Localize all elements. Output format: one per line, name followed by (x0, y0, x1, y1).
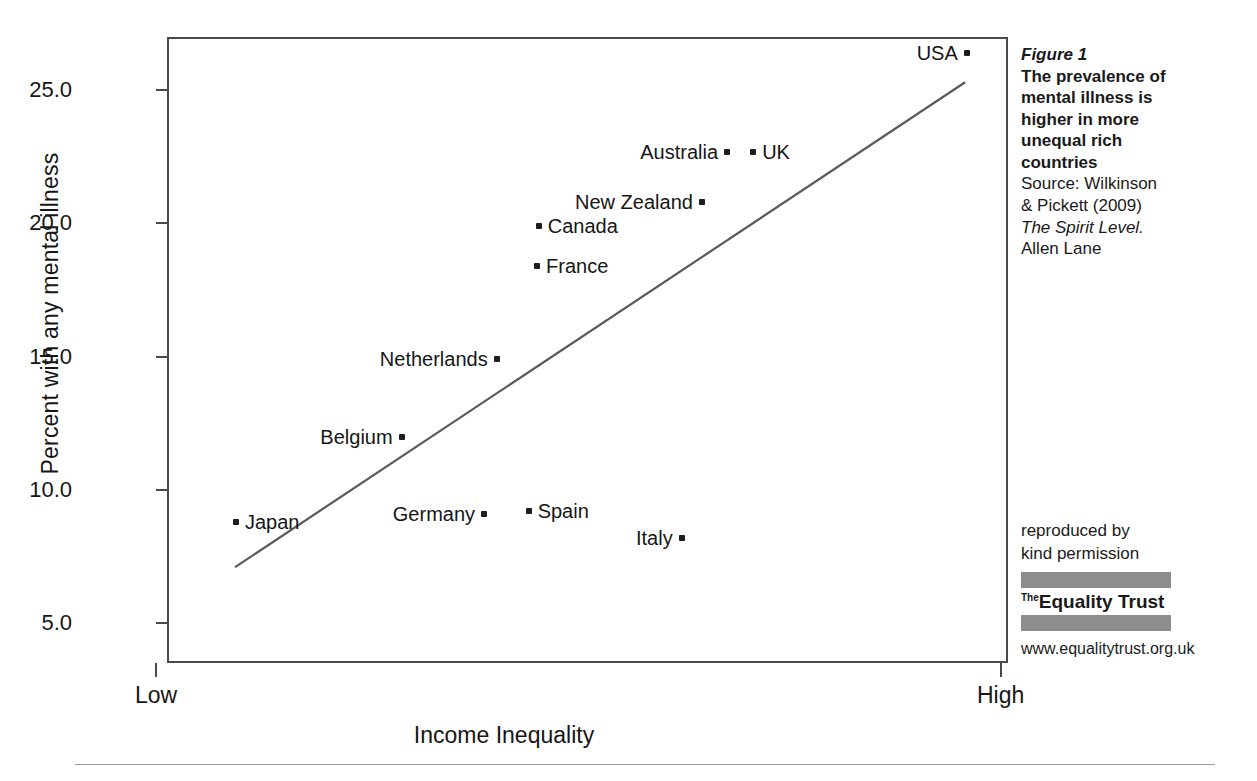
data-point-label: Australia (640, 140, 718, 163)
data-point[interactable] (526, 508, 532, 514)
data-point-label: Japan (245, 510, 300, 533)
credit-block: reproduced by kind permission TheEqualit… (1021, 520, 1249, 658)
figure-root: Percent with any mental illness 5.010.01… (0, 0, 1257, 781)
caption-source-title: The Spirit Level. (1021, 217, 1249, 239)
y-tick-label: 5.0 (41, 610, 72, 636)
caption-headline: The prevalence of mental illness is high… (1021, 66, 1249, 174)
data-point-label: Germany (393, 502, 475, 525)
data-point-label: Netherlands (380, 348, 488, 371)
data-point[interactable] (233, 519, 239, 525)
data-point[interactable] (724, 149, 730, 155)
caption-source-line: & Pickett (2009) (1021, 195, 1249, 217)
y-axis-title: Percent with any mental illness (37, 104, 64, 524)
equality-trust-url[interactable]: www.equalitytrust.org.uk (1021, 640, 1249, 658)
trendline (235, 82, 965, 567)
data-point[interactable] (964, 50, 970, 56)
data-point-label: France (546, 255, 608, 278)
x-axis-title: Income Inequality (0, 722, 1008, 749)
data-point-label: New Zealand (575, 191, 693, 214)
data-point[interactable] (494, 356, 500, 362)
y-tick-mark (156, 89, 167, 91)
data-point[interactable] (534, 263, 540, 269)
y-tick-label: 20.0 (29, 210, 72, 236)
caption-source-line: Source: Wilkinson (1021, 173, 1249, 195)
x-tick-label: High (977, 682, 1024, 709)
logo-bar-top (1021, 572, 1171, 588)
caption-panel: Figure 1 The prevalence of mental illnes… (1021, 44, 1249, 260)
x-tick-mark (1000, 663, 1002, 677)
logo-name-text: Equality Trust (1039, 591, 1165, 612)
y-tick-label: 10.0 (29, 477, 72, 503)
data-point[interactable] (679, 535, 685, 541)
x-tick-label: Low (135, 682, 177, 709)
credit-line-1: reproduced by (1021, 520, 1249, 543)
credit-line-2: kind permission (1021, 543, 1249, 566)
y-tick-mark (156, 356, 167, 358)
data-point-label: Canada (548, 215, 618, 238)
data-point[interactable] (536, 223, 542, 229)
caption-headline-line: countries (1021, 152, 1249, 174)
plot-canvas (167, 37, 1008, 663)
caption-headline-line: unequal rich (1021, 130, 1249, 152)
data-point[interactable] (399, 434, 405, 440)
logo-the-text: The (1021, 592, 1039, 603)
y-tick-mark (156, 222, 167, 224)
y-tick-mark (156, 489, 167, 491)
data-point-label: USA (917, 41, 958, 64)
data-point-label: Italy (636, 526, 673, 549)
caption-headline-line: higher in more (1021, 109, 1249, 131)
caption-headline-line: mental illness is (1021, 87, 1249, 109)
caption-headline-line: The prevalence of (1021, 66, 1249, 88)
figure-number: Figure 1 (1021, 44, 1249, 66)
y-tick-mark (156, 622, 167, 624)
data-point-label: Belgium (320, 425, 392, 448)
logo-bar-bottom (1021, 615, 1171, 631)
data-point[interactable] (750, 149, 756, 155)
y-tick-label: 25.0 (29, 77, 72, 103)
data-point[interactable] (699, 199, 705, 205)
data-point-label: UK (762, 140, 790, 163)
data-point-label: Spain (538, 500, 589, 523)
x-tick-mark (155, 663, 157, 677)
bottom-divider (75, 764, 1215, 765)
equality-trust-logo: TheEquality Trust (1021, 592, 1249, 611)
y-tick-label: 15.0 (29, 344, 72, 370)
caption-publisher: Allen Lane (1021, 238, 1249, 260)
data-point[interactable] (481, 511, 487, 517)
